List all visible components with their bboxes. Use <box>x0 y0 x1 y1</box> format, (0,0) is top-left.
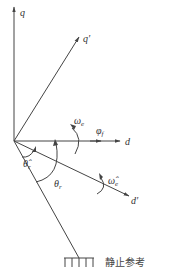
d-prime-axis <box>14 141 129 196</box>
theta-r-arc <box>36 143 57 182</box>
q-prime-axis-label: q′ <box>83 33 91 44</box>
phi-f-label: φf <box>96 125 105 138</box>
d-prime-axis-label: d′ <box>131 195 139 206</box>
theta-r-hat-label: θ̂r <box>23 158 32 171</box>
q-axis-label: q <box>20 7 25 18</box>
d-axis-label: d <box>125 136 131 147</box>
q-prime-axis <box>14 37 79 141</box>
omega-e-hat-arrowhead <box>99 173 103 180</box>
ground-symbol-icon <box>64 258 94 267</box>
omega-e-hat-rotation-arrow <box>97 178 104 194</box>
ground-label: 静止参考 <box>105 256 145 268</box>
theta-r-hat-arrowhead <box>32 146 36 152</box>
theta-r-label: θr <box>54 178 62 191</box>
coordinate-diagram: q q′ d φf d′ ωe ω̂e θ̂r θr 静止参考 <box>0 0 178 276</box>
theta-r-hat-arc <box>22 150 34 157</box>
omega-e-hat-label: ω̂e <box>108 175 119 188</box>
theta-r-arrowhead <box>53 139 58 146</box>
